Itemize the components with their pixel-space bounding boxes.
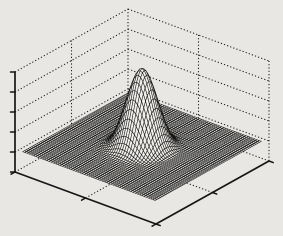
- gaussian-mesh-plot-canvas: [0, 0, 283, 236]
- surface-plot-figure: [0, 0, 283, 236]
